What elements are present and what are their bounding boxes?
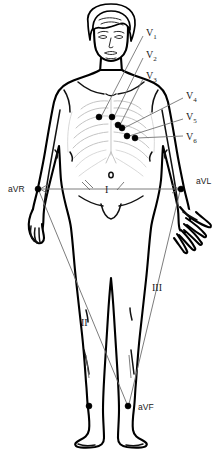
label-avl: aVL [196,176,211,186]
label-avr: aVR [8,184,25,194]
electrode-v1 [96,114,102,120]
ecg-diagram-svg: V1 V2 V3 V4 V5 V6 aVR aVL aVF I II III [0,0,222,451]
label-v5: V5 [186,111,197,125]
human-figure [29,4,211,448]
electrode-avl [178,186,184,192]
electrode-v2 [109,114,115,120]
label-v2: V2 [146,49,157,63]
label-lead-iii: III [152,282,162,293]
electrode-v5 [124,133,130,139]
label-v1: V1 [146,27,157,41]
electrode-right-ankle [86,403,92,409]
label-lead-ii: II [81,317,88,328]
ecg-electrode-placement-diagram: V1 V2 V3 V4 V5 V6 aVR aVL aVF I II III [0,0,222,451]
label-avf: aVF [138,402,154,412]
electrode-v4 [119,125,125,131]
label-v6: V6 [186,131,197,145]
label-lead-i: I [105,184,108,195]
electrode-avr [35,186,41,192]
electrode-avf [125,403,131,409]
label-v4: V4 [186,90,197,104]
electrode-v6 [132,135,138,141]
